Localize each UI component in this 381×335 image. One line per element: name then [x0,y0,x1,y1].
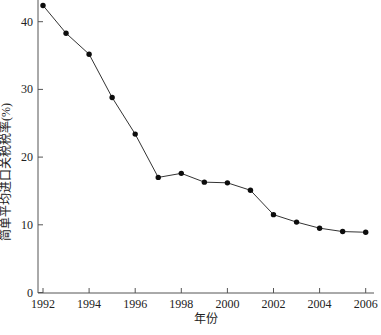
data-point-marker [133,131,138,136]
tariff-line-chart: 0102030401992199419961998200020022004200… [0,0,381,335]
x-axis-title: 年份 [194,312,218,326]
x-tick-label: 1994 [77,297,101,311]
data-point-marker [340,229,345,234]
x-tick-label: 2000 [215,297,239,311]
y-tick-label: 20 [21,150,33,164]
data-point-marker [86,51,91,56]
data-point-marker [109,95,114,100]
data-point-marker [63,31,68,36]
data-point-marker [202,179,207,184]
data-point-marker [248,188,253,193]
plot-canvas: 0102030401992199419961998200020022004200… [0,0,381,335]
x-tick-label: 2004 [308,297,332,311]
x-tick-label: 1996 [123,297,147,311]
data-point-marker [179,171,184,176]
data-point-marker [225,180,230,185]
data-point-marker [294,219,299,224]
data-point-marker [363,230,368,235]
data-point-marker [40,3,45,8]
data-point-marker [156,175,161,180]
x-tick-label: 2002 [262,297,286,311]
series-line [43,5,366,232]
data-point-marker [317,225,322,230]
x-tick-label: 2006 [354,297,378,311]
plot-dynamic-layer: 0102030401992199419961998200020022004200… [21,0,378,311]
x-tick-label: 1998 [169,297,193,311]
x-tick-label: 1992 [31,297,55,311]
y-axis-title: 简单平均进口关税税率(%) [0,103,13,241]
data-point-marker [271,212,276,217]
y-tick-label: 30 [21,82,33,96]
y-tick-label: 10 [21,218,33,232]
y-tick-label: 40 [21,15,33,29]
